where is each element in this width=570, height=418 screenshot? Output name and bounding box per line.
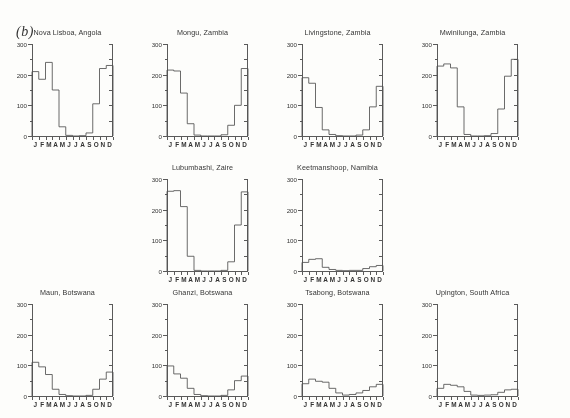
x-tick <box>356 397 357 400</box>
x-tick <box>194 137 195 140</box>
rainfall-step-line <box>167 179 248 271</box>
x-tick <box>316 397 317 400</box>
chart-plot-area: 0100200300JFMAMJJASOND <box>135 300 270 412</box>
x-tick <box>214 137 215 140</box>
y-tick-label: 300 <box>152 301 162 308</box>
x-tick <box>228 272 229 275</box>
x-tick <box>39 397 40 400</box>
x-tick <box>32 397 33 400</box>
y-tick-label: 200 <box>287 71 297 78</box>
x-tick-label: N <box>506 141 511 148</box>
x-tick-label: N <box>506 401 511 408</box>
x-tick-label: J <box>169 141 173 148</box>
x-tick <box>302 272 303 275</box>
x-tick-label: O <box>364 276 369 283</box>
x-tick <box>66 397 67 400</box>
chart-title: Mongu, Zambia <box>135 28 270 37</box>
x-tick-label: N <box>236 141 241 148</box>
x-tick <box>208 137 209 140</box>
y-tick-label: 200 <box>152 71 162 78</box>
x-tick-label: O <box>364 401 369 408</box>
x-tick <box>208 397 209 400</box>
x-tick-label: O <box>364 141 369 148</box>
y-tick-label: 100 <box>17 102 27 109</box>
x-tick <box>181 272 182 275</box>
x-tick <box>241 272 242 275</box>
y-axis-right <box>383 179 384 271</box>
x-tick <box>471 397 472 400</box>
y-tick-label: 0 <box>159 268 162 275</box>
step-path <box>437 384 518 396</box>
x-tick <box>46 397 47 400</box>
x-tick <box>329 137 330 140</box>
x-axis: JFMAMJJASOND <box>167 272 248 286</box>
step-path <box>32 362 113 396</box>
x-tick-label: N <box>371 401 376 408</box>
x-tick <box>181 397 182 400</box>
x-tick <box>363 137 364 140</box>
y-tick-label: 0 <box>429 133 432 140</box>
x-tick-label: N <box>371 276 376 283</box>
x-tick <box>100 137 101 140</box>
step-path <box>167 366 248 396</box>
rainfall-step-line <box>167 304 248 396</box>
y-tick-label: 100 <box>287 102 297 109</box>
x-tick <box>59 137 60 140</box>
x-tick <box>194 272 195 275</box>
chart-plot-area: 0100200300JFMAMJJASOND <box>270 300 405 412</box>
x-tick <box>302 397 303 400</box>
x-tick-label: M <box>330 276 335 283</box>
x-tick-label: J <box>169 276 173 283</box>
x-tick-label: M <box>181 401 186 408</box>
x-tick <box>376 397 377 400</box>
x-tick-label: A <box>485 401 490 408</box>
y-tick-label: 300 <box>17 301 27 308</box>
x-tick-label: J <box>304 276 308 283</box>
x-tick-label: D <box>512 401 517 408</box>
x-tick-label: S <box>87 141 91 148</box>
x-tick-label: M <box>465 141 470 148</box>
x-tick-label: N <box>371 141 376 148</box>
x-tick-label: M <box>195 401 200 408</box>
x-tick <box>349 272 350 275</box>
rainfall-step-line <box>32 304 113 396</box>
chart-title: Keetmanshoop, Namibia <box>270 163 405 172</box>
chart-plot-area: 0100200300JFMAMJJASOND <box>0 40 135 152</box>
x-tick-label: D <box>107 401 112 408</box>
x-tick-label: S <box>357 141 361 148</box>
x-tick <box>93 137 94 140</box>
y-tick-label: 100 <box>17 362 27 369</box>
x-tick-label: M <box>181 141 186 148</box>
x-tick-label: J <box>479 401 483 408</box>
x-tick <box>336 272 337 275</box>
y-tick-label: 300 <box>287 301 297 308</box>
x-tick-label: M <box>330 401 335 408</box>
chart-title: Nova Lisboa, Angola <box>0 28 135 37</box>
x-tick-label: M <box>316 276 321 283</box>
x-tick <box>451 397 452 400</box>
y-tick-label: 0 <box>294 133 297 140</box>
x-tick <box>52 397 53 400</box>
x-tick-label: J <box>74 141 78 148</box>
x-tick-label: N <box>236 276 241 283</box>
x-tick-label: F <box>175 276 179 283</box>
x-tick-label: N <box>101 141 106 148</box>
x-tick-label: D <box>377 401 382 408</box>
x-tick <box>86 397 87 400</box>
x-tick <box>59 397 60 400</box>
x-tick <box>376 137 377 140</box>
x-tick <box>383 397 384 400</box>
x-tick <box>235 272 236 275</box>
x-tick <box>167 137 168 140</box>
chart-title: Maun, Botswana <box>0 288 135 297</box>
x-tick-label: A <box>323 276 328 283</box>
y-tick-label: 100 <box>422 102 432 109</box>
x-tick <box>437 137 438 140</box>
x-axis: JFMAMJJASOND <box>302 137 383 151</box>
x-tick-label: A <box>215 276 220 283</box>
y-tick-label: 100 <box>287 237 297 244</box>
x-tick <box>235 397 236 400</box>
x-tick <box>356 272 357 275</box>
x-tick-label: J <box>209 401 213 408</box>
x-tick-label: F <box>40 141 44 148</box>
